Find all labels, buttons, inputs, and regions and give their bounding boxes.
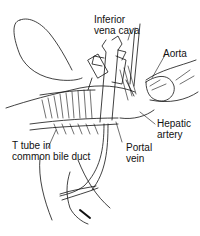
liver-margin	[6, 86, 135, 108]
diagram-canvas: Inferiorvena cava Aorta Hepaticartery Po…	[0, 0, 200, 236]
label-hepatic-artery: Hepaticartery	[157, 118, 191, 140]
label-line: artery	[157, 129, 183, 140]
label-line: vein	[126, 153, 144, 164]
label-inferior-vena-cava: Inferiorvena cava	[94, 14, 140, 36]
ivc-vessel	[92, 36, 126, 122]
label-t-tube: T tube incommon bile duct	[12, 140, 90, 162]
label-portal-vein: Portalvein	[126, 142, 152, 164]
label-line: common bile duct	[12, 151, 90, 162]
liver-outline	[14, 19, 82, 80]
label-line: Inferior	[94, 14, 125, 25]
label-line: Hepatic	[157, 118, 191, 129]
leader-portal	[116, 122, 122, 142]
label-line: Aorta	[163, 48, 187, 59]
hepatic-artery	[120, 110, 154, 119]
common-bile-duct	[30, 118, 118, 130]
label-aorta: Aorta	[163, 48, 187, 59]
label-line: vena cava	[94, 25, 140, 36]
label-line: Portal	[126, 142, 152, 153]
label-line: T tube in	[12, 140, 51, 151]
